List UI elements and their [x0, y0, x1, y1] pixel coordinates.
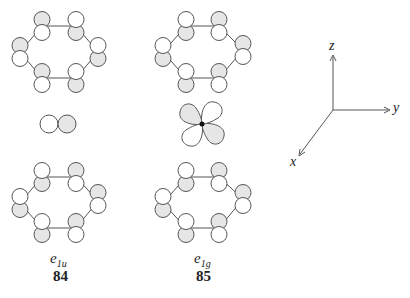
axis-label-y: y: [393, 100, 399, 116]
axis-label-z: z: [329, 38, 334, 54]
ring-e1g-top: [155, 12, 251, 93]
d-orbital: [180, 102, 224, 146]
compound-number-84: 84: [53, 268, 68, 285]
axis-label-x: x: [290, 154, 296, 170]
symmetry-label-e1g: e1g: [194, 250, 211, 269]
ring-e1u-top: [12, 12, 106, 93]
compound-number-85: 85: [196, 268, 211, 285]
coordinate-axes: [299, 55, 390, 156]
p-orbital: [40, 115, 76, 133]
ring-e1u-bottom: [12, 163, 106, 243]
symmetry-label-e1u: e1u: [50, 250, 67, 269]
ring-e1g-bottom: [155, 163, 251, 243]
